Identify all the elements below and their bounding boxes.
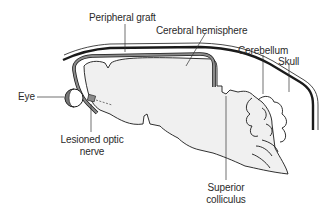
label-superior-colliculus: Superior colliculus xyxy=(196,182,256,206)
label-lesioned-optic-nerve: Lesioned optic nerve xyxy=(57,134,127,158)
label-skull: Skull xyxy=(278,56,299,68)
label-superior-colliculus-line2: colliculus xyxy=(196,194,256,206)
brain-graft-diagram: Peripheral graft Cerebral hemisphere Cer… xyxy=(0,0,327,215)
label-lesioned-optic-nerve-line1: Lesioned optic xyxy=(57,134,127,146)
eye-icon xyxy=(65,89,83,107)
label-lesioned-optic-nerve-line2: nerve xyxy=(57,146,127,158)
label-eye: Eye xyxy=(18,91,35,103)
label-peripheral-graft: Peripheral graft xyxy=(89,12,156,24)
label-cerebral-hemisphere: Cerebral hemisphere xyxy=(156,25,247,37)
label-superior-colliculus-line1: Superior xyxy=(196,182,256,194)
